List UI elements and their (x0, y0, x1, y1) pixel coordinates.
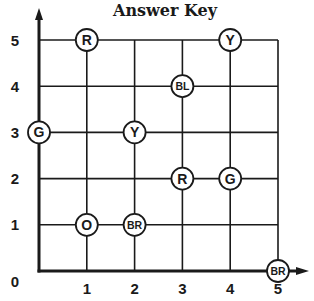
y-tick-label: 5 (11, 32, 19, 49)
x-tick-label: 3 (178, 280, 186, 297)
x-tick-label: 1 (83, 280, 91, 297)
x-tick-label: 2 (130, 280, 138, 297)
x-axis-arrow-icon (296, 267, 309, 275)
grid-lines (39, 40, 278, 271)
y-axis-arrow-icon (35, 8, 43, 20)
point-marker: O (76, 214, 98, 236)
marker-label: Y (226, 32, 236, 48)
point-marker: BL (171, 75, 193, 97)
marker-label: O (81, 217, 92, 233)
y-tick-label: 3 (11, 124, 19, 141)
point-marker: G (219, 168, 241, 190)
marker-label: R (177, 171, 187, 187)
point-marker: G (28, 121, 50, 143)
y-tick-label: 4 (11, 78, 20, 95)
point-marker: BR (124, 214, 146, 236)
y-tick-label: 1 (11, 216, 19, 233)
point-marker: R (171, 168, 193, 190)
marker-label: Y (130, 124, 140, 140)
x-tick-label: 4 (226, 280, 235, 297)
coordinate-grid: 12345123450 RYBLGYRGOBRBR (0, 0, 314, 301)
axes (35, 8, 309, 275)
marker-label: BL (175, 80, 190, 92)
point-markers: RYBLGYRGOBRBR (28, 29, 289, 282)
marker-label: BR (270, 265, 286, 277)
tick-labels: 12345123450 (11, 32, 282, 298)
marker-label: R (82, 32, 92, 48)
point-marker: Y (219, 29, 241, 51)
marker-label: G (225, 171, 236, 187)
origin-label: 0 (11, 273, 19, 290)
point-marker: Y (124, 121, 146, 143)
marker-label: BR (127, 219, 143, 231)
point-marker: R (76, 29, 98, 51)
marker-label: G (34, 124, 45, 140)
point-marker: BR (267, 260, 289, 282)
y-tick-label: 2 (11, 170, 19, 187)
